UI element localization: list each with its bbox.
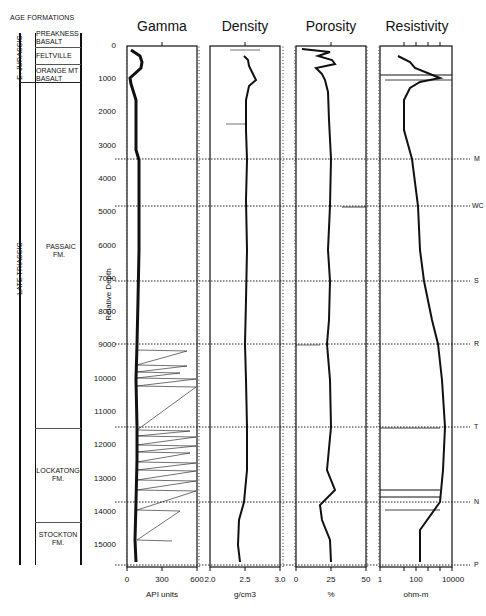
gamma-tick: 300 [150, 575, 174, 584]
marker-label-m: M [474, 155, 480, 162]
marker-label-r: R [474, 340, 479, 347]
marker-label-t: T [474, 423, 478, 430]
porosity-panel-frame [296, 46, 366, 567]
resistivity-tick: 10000 [436, 575, 470, 584]
marker-label-s: S [474, 277, 479, 284]
resistivity-curve [380, 56, 452, 562]
density-unit: g/cm3 [210, 590, 280, 599]
resistivity-tick: 100 [403, 575, 429, 584]
resistivity-tick: 1 [372, 575, 388, 584]
gamma-unit: API units [127, 590, 197, 599]
gamma-tick: 0 [117, 575, 137, 584]
marker-label-wc: WC [472, 202, 484, 209]
density-tick: 2.0 [200, 575, 220, 584]
porosity-unit: % [296, 590, 366, 599]
well-log-plot [0, 0, 486, 616]
porosity-curve [296, 49, 366, 562]
density-tick: 2.5 [235, 575, 255, 584]
porosity-tick: 0 [286, 575, 306, 584]
porosity-tick: 25 [321, 575, 341, 584]
resistivity-unit: ohm-m [380, 590, 452, 599]
marker-label-n: N [474, 498, 479, 505]
marker-label-p: P [474, 561, 479, 568]
gamma-curve [130, 50, 196, 562]
density-curve [226, 50, 260, 562]
